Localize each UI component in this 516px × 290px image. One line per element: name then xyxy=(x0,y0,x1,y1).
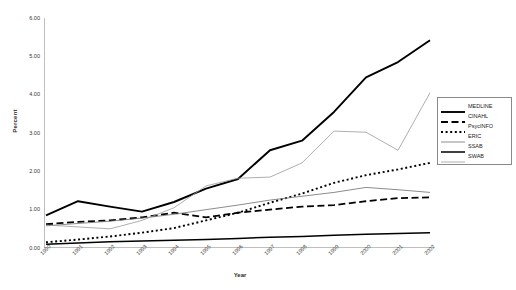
legend-swatch-psycinfo-icon xyxy=(440,122,466,130)
y-tick-label: 2.00 xyxy=(10,168,40,174)
legend-swatch-ssab-icon xyxy=(440,142,466,150)
legend-swatch-cinahl-icon xyxy=(440,112,466,120)
legend-label: SWAB xyxy=(466,153,484,159)
legend-item-swab[interactable]: SWAB xyxy=(440,151,509,161)
y-tick-label: 0.00 xyxy=(10,245,40,251)
chart-legend: MEDLINECINAHLPsycINFOERICSSABSWAB xyxy=(437,97,512,165)
chart-figure: Percent Year 0.001.002.003.004.005.006.0… xyxy=(0,0,516,290)
legend-item-ssab[interactable]: SSAB xyxy=(440,141,509,151)
series-line-ssab xyxy=(46,233,430,245)
legend-label: PsycINFO xyxy=(466,123,493,129)
legend-item-cinahl[interactable]: CINAHL xyxy=(440,111,509,121)
legend-swatch-swab-icon xyxy=(440,152,466,160)
series-line-cinahl xyxy=(46,197,430,224)
y-tick-label: 6.00 xyxy=(10,15,40,21)
legend-label: SSAB xyxy=(466,143,483,149)
x-axis-title: Year xyxy=(0,272,480,278)
y-tick-label: 3.00 xyxy=(10,130,40,136)
series-line-psycinfo xyxy=(46,163,430,242)
legend-item-psycinfo[interactable]: PsycINFO xyxy=(440,121,509,131)
legend-label: ERIC xyxy=(466,133,481,139)
y-tick-label: 1.00 xyxy=(10,206,40,212)
series-canvas xyxy=(44,18,434,248)
legend-swatch-medline-icon xyxy=(440,102,466,110)
legend-item-medline[interactable]: MEDLINE xyxy=(440,101,509,111)
legend-label: MEDLINE xyxy=(466,103,492,109)
legend-swatch-eric-icon xyxy=(440,132,466,140)
y-axis-title: Percent xyxy=(12,91,18,151)
legend-label: CINAHL xyxy=(466,113,488,119)
y-tick-label: 5.00 xyxy=(10,53,40,59)
plot-area xyxy=(44,18,434,248)
series-line-swab xyxy=(46,93,430,229)
legend-item-eric[interactable]: ERIC xyxy=(440,131,509,141)
series-line-medline xyxy=(46,40,430,215)
y-tick-label: 4.00 xyxy=(10,91,40,97)
